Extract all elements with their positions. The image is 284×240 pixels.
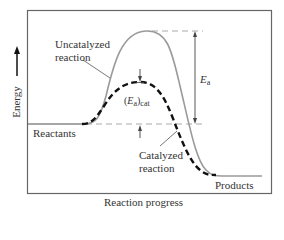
x-axis-label: Reaction progress [104, 196, 183, 208]
uncatalyzed-label-line2: reaction [55, 51, 110, 64]
y-axis-label: Energy [10, 82, 22, 122]
ea-label-sub: a [207, 78, 211, 87]
catalyzed-label-line2: reaction [139, 162, 183, 175]
uncatalyzed-label: Uncatalyzed reaction [55, 38, 110, 64]
ea-label: Ea [200, 73, 210, 87]
ea-arrow-icon [193, 31, 197, 124]
ea-cat-bottom-arrow-icon [138, 125, 142, 138]
catalyzed-label: Catalyzed reaction [139, 149, 183, 175]
ea-cat-subscript: cat [140, 99, 149, 108]
reactants-label: Reactants [33, 127, 76, 139]
ea-cat-sub: a [133, 99, 137, 108]
ea-cat-label: (Ea)cat [124, 95, 150, 108]
products-label: Products [215, 179, 254, 191]
catalyzed-leader-line [160, 131, 177, 146]
uncatalyzed-label-line1: Uncatalyzed [55, 38, 110, 51]
ea-cat-top-arrow-icon [136, 69, 144, 83]
catalyzed-label-line1: Catalyzed [139, 149, 183, 162]
energy-axis-arrow-icon [14, 46, 20, 76]
ea-label-main: E [200, 73, 207, 85]
